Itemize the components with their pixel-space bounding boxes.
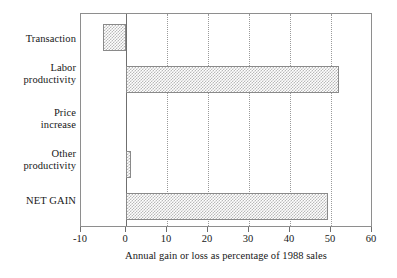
category-label-line: increase <box>0 119 76 131</box>
category-label-line: Transaction <box>0 33 76 45</box>
tick-label-0: 0 <box>105 233 145 245</box>
bar-other-productivity <box>126 151 131 178</box>
bar-chart: Transaction Labor productivity Price inc… <box>0 0 397 278</box>
tick-mark-50 <box>330 227 331 232</box>
tick-label-40: 40 <box>269 233 309 245</box>
category-label-line: productivity <box>0 74 76 86</box>
category-label-line: NET GAIN <box>0 195 76 207</box>
category-label-line: Price <box>0 107 76 119</box>
bar-labor-productivity <box>126 66 339 93</box>
bar-net-gain <box>126 193 328 220</box>
category-label-price-increase: Price increase <box>0 107 76 130</box>
x-axis-title: Annual gain or loss as percentage of 198… <box>80 250 372 262</box>
tick-mark-10 <box>166 227 167 232</box>
category-label-net-gain: NET GAIN <box>0 195 76 207</box>
tick-label-10: 10 <box>146 233 186 245</box>
tick-mark-40 <box>289 227 290 232</box>
tick-label-30: 30 <box>228 233 268 245</box>
category-label-transaction: Transaction <box>0 33 76 45</box>
tick-mark-30 <box>248 227 249 232</box>
category-label-labor-productivity: Labor productivity <box>0 62 76 85</box>
gridline-50 <box>331 14 333 226</box>
tick-label--10: -10 <box>60 233 100 245</box>
tick-mark-60 <box>371 227 372 232</box>
category-label-other-productivity: Other productivity <box>0 148 76 171</box>
tick-mark-0 <box>125 227 126 232</box>
category-axis-labels: Transaction Labor productivity Price inc… <box>0 12 76 227</box>
bar-transaction <box>103 24 126 51</box>
category-label-line: Labor <box>0 62 76 74</box>
tick-label-50: 50 <box>310 233 350 245</box>
tick-label-60: 60 <box>351 233 391 245</box>
plot-area <box>80 13 372 227</box>
tick-label-20: 20 <box>187 233 227 245</box>
tick-mark--10 <box>80 227 81 232</box>
tick-mark-20 <box>207 227 208 232</box>
category-label-line: Other <box>0 148 76 160</box>
category-label-line: productivity <box>0 160 76 172</box>
